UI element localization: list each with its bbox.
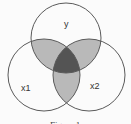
venn-diagram: y x1 x2 Figure 1 <box>0 0 131 124</box>
label-y: y <box>64 19 69 29</box>
label-x1: x1 <box>21 83 31 93</box>
label-x2: x2 <box>90 81 100 91</box>
figure-caption: Figure 1 <box>50 120 80 124</box>
